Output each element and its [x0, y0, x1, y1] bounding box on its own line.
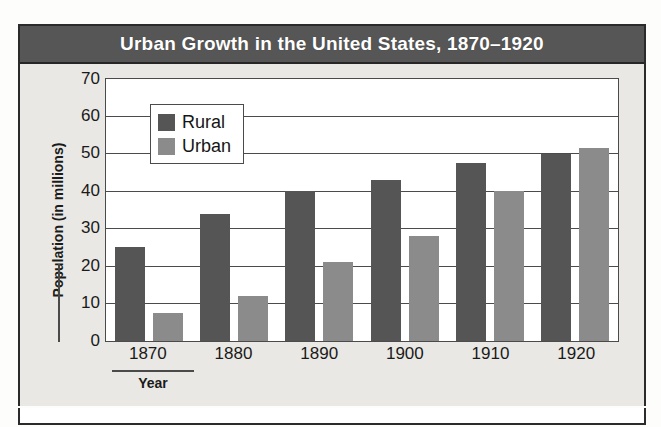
y-tick-50: 50: [66, 144, 100, 161]
bar-rural-1900[interactable]: [371, 180, 401, 341]
bar-rural-1870[interactable]: [115, 247, 145, 341]
bar-rural-1880[interactable]: [200, 214, 230, 341]
y-tick-60: 60: [66, 107, 100, 124]
bar-group-1910: [447, 79, 532, 341]
chart-figure: Urban Growth in the United States, 1870–…: [18, 24, 646, 406]
y-tick-20: 20: [66, 257, 100, 274]
urban-swatch-icon: [158, 138, 175, 155]
bar-urban-1870[interactable]: [153, 313, 183, 341]
x-axis-title: Year: [112, 375, 194, 391]
bar-group-1890: [277, 79, 362, 341]
y-tick-10: 10: [66, 294, 100, 311]
y-axis-ticks: 70 60 50 40 30 20 10 0: [60, 64, 100, 406]
bar-rural-1910[interactable]: [456, 163, 486, 341]
x-axis-ticks: 187018801890190019101920: [105, 344, 619, 364]
legend-label-rural: Rural: [182, 113, 225, 131]
x-tick-1880: 1880: [191, 344, 277, 364]
bar-urban-1880[interactable]: [238, 296, 268, 341]
x-tick-1910: 1910: [448, 344, 534, 364]
legend-entry-urban: Urban: [158, 134, 231, 158]
bar-group-1900: [362, 79, 447, 341]
y-tick-0: 0: [66, 332, 100, 349]
chart-legend: Rural Urban: [150, 104, 244, 164]
x-axis-title-rule: [112, 370, 194, 372]
x-tick-1890: 1890: [276, 344, 362, 364]
rural-swatch-icon: [158, 114, 175, 131]
bar-urban-1900[interactable]: [409, 236, 439, 341]
bar-rural-1920[interactable]: [541, 154, 571, 341]
legend-label-urban: Urban: [182, 137, 231, 155]
bar-urban-1910[interactable]: [494, 191, 524, 341]
figure-caption-strip: [18, 408, 646, 425]
bar-urban-1890[interactable]: [323, 262, 353, 341]
bar-urban-1920[interactable]: [579, 148, 609, 341]
chart-body: Population (in millions) 70 60 50 40 30 …: [20, 64, 644, 406]
x-tick-1920: 1920: [533, 344, 619, 364]
x-tick-1900: 1900: [362, 344, 448, 364]
scanned-page: Urban Growth in the United States, 1870–…: [0, 0, 661, 427]
y-tick-30: 30: [66, 219, 100, 236]
chart-title: Urban Growth in the United States, 1870–…: [120, 33, 544, 55]
y-tick-70: 70: [66, 70, 100, 87]
plot-area: Rural Urban: [105, 78, 619, 342]
legend-entry-rural: Rural: [158, 110, 231, 134]
x-tick-1870: 1870: [105, 344, 191, 364]
bar-group-1920: [533, 79, 618, 341]
chart-title-bar: Urban Growth in the United States, 1870–…: [20, 26, 644, 64]
y-tick-40: 40: [66, 182, 100, 199]
bar-rural-1890[interactable]: [285, 191, 315, 341]
